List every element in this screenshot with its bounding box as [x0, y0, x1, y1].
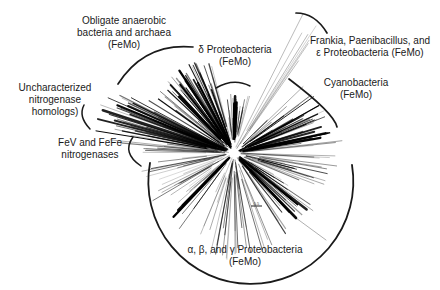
proteobacteria-label: α, β, and γ Proteobacteria (FeMo) [160, 244, 330, 268]
uncharacterized-label: Uncharacterized nitrogenase homologs) [0, 82, 110, 118]
label-line: Obligate anaerobic [49, 15, 199, 27]
branch-proteobacteria-down [244, 180, 267, 240]
phylogeny-figure: 0.5 Obligate anaerobic bacteria and arch… [0, 0, 440, 290]
branch-delta-proteobacteria [227, 100, 232, 140]
label-line: (FeMo) [170, 56, 300, 68]
label-line: (FeMo) [296, 89, 416, 101]
cyanobacteria-label: Cyanobacteria (FeMo) [296, 77, 416, 101]
fev-fefe-label: FeV and FeFe nitrogenases [30, 137, 150, 161]
label-line: Frankia, Paenibacillus, and [300, 35, 440, 47]
frankia-bracket [296, 13, 327, 33]
branch-proteobacteria-left [216, 173, 225, 193]
label-line: ε Proteobacteria (FeMo) [300, 47, 440, 59]
branch-fev-fefe [143, 152, 206, 153]
label-line: Uncharacterized [0, 82, 110, 94]
label-line: homologs) [0, 106, 110, 118]
label-line: α, β, and γ Proteobacteria [160, 244, 330, 256]
label-line: nitrogenases [30, 149, 150, 161]
label-line: δ Proteobacteria [170, 44, 300, 56]
delta-proteobacteria-label: δ Proteobacteria (FeMo) [170, 44, 300, 68]
label-line: bacteria and archaea [49, 27, 199, 39]
label-line: nitrogenase [0, 94, 110, 106]
branch-proteobacteria-down [217, 176, 226, 202]
scale-bar-label: 0.5 [254, 201, 260, 206]
frankia-paenibacillus-label: Frankia, Paenibacillus, and ε Proteobact… [300, 35, 440, 59]
delta-proteobacteria-bracket [216, 82, 250, 88]
branch-streak-tail [296, 218, 326, 240]
label-line: Cyanobacteria [296, 77, 416, 89]
label-line: FeV and FeFe [30, 137, 150, 149]
label-line: (FeMo) [160, 256, 330, 268]
branch-proteobacteria-down [210, 174, 229, 254]
